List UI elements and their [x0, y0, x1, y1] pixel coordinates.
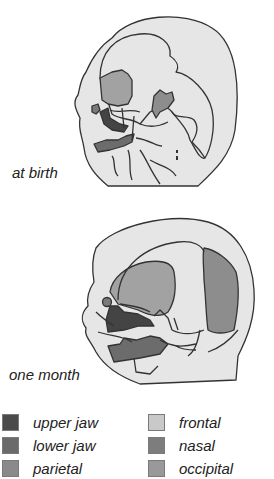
- swatch-frontal: [148, 414, 165, 431]
- skull-growth-diagram: at birth one month: [0, 0, 274, 400]
- swatch-lower-jaw: [2, 437, 19, 454]
- legend-item-parietal: parietal: [2, 458, 82, 478]
- legend-label: nasal: [179, 437, 215, 454]
- legend-item-occipital: occipital: [148, 458, 233, 478]
- nasal-bone-month: [103, 298, 112, 307]
- legend-item-lower-jaw: lower jaw: [2, 435, 96, 455]
- skull-at-birth: [75, 17, 237, 186]
- skull-one-month: [82, 219, 254, 384]
- legend-item-frontal: frontal: [148, 412, 221, 432]
- legend: upper jaw lower jaw parietal frontal nas…: [0, 410, 274, 479]
- caption-one-month: one month: [9, 366, 80, 383]
- legend-label: occipital: [179, 460, 233, 477]
- caption-at-birth: at birth: [12, 164, 58, 181]
- legend-item-nasal: nasal: [148, 435, 215, 455]
- swatch-parietal: [2, 460, 19, 477]
- legend-label: upper jaw: [33, 414, 98, 431]
- swatch-occipital: [148, 460, 165, 477]
- legend-item-upper-jaw: upper jaw: [2, 412, 98, 432]
- frontal-bone-birth: [100, 70, 132, 106]
- swatch-nasal: [148, 437, 165, 454]
- legend-label: parietal: [33, 460, 82, 477]
- swatch-upper-jaw: [2, 414, 19, 431]
- legend-label: lower jaw: [33, 437, 96, 454]
- skull-illustrations: [0, 0, 274, 400]
- legend-label: frontal: [179, 414, 221, 431]
